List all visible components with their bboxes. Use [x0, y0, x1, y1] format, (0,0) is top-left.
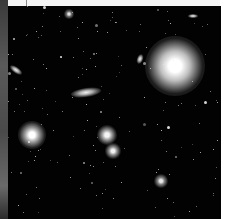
background-star	[50, 160, 51, 161]
background-star	[12, 54, 13, 55]
background-star	[14, 111, 15, 112]
background-star	[28, 141, 30, 143]
background-star	[163, 64, 164, 65]
background-star	[39, 198, 40, 199]
background-star	[194, 23, 195, 24]
background-star	[86, 104, 87, 105]
background-star	[70, 177, 71, 178]
background-star	[87, 120, 88, 121]
background-star	[27, 34, 28, 35]
background-star	[43, 64, 44, 65]
background-star	[82, 74, 83, 75]
background-star	[175, 34, 176, 35]
background-star	[34, 160, 35, 161]
background-star	[82, 68, 83, 69]
elliptical-galaxy-left	[18, 121, 46, 149]
background-star	[93, 145, 94, 146]
background-star	[8, 137, 9, 138]
background-star	[139, 31, 140, 32]
background-star	[161, 140, 162, 141]
background-star	[46, 90, 47, 91]
background-star	[22, 94, 23, 95]
background-star	[96, 53, 97, 54]
background-star	[205, 54, 206, 55]
background-star	[61, 57, 62, 58]
background-star	[157, 9, 159, 11]
galaxy-lower-right	[154, 174, 168, 188]
background-star	[8, 101, 9, 102]
galaxy-field-image	[8, 6, 221, 219]
background-star	[43, 6, 46, 9]
background-star	[207, 24, 208, 25]
background-star	[140, 24, 141, 25]
background-star	[28, 161, 29, 162]
background-star	[126, 30, 127, 31]
background-star	[157, 124, 158, 125]
background-star	[119, 117, 120, 118]
background-star	[216, 100, 217, 101]
background-star	[103, 99, 104, 100]
background-star	[8, 54, 9, 55]
background-star	[89, 173, 90, 174]
background-star	[69, 155, 70, 156]
background-star	[193, 159, 194, 160]
background-star	[96, 195, 97, 196]
background-star	[121, 182, 122, 183]
background-star	[216, 167, 217, 168]
background-star	[217, 140, 218, 141]
background-star	[38, 212, 39, 213]
background-star	[24, 111, 25, 112]
background-star	[19, 104, 20, 105]
background-star	[26, 35, 27, 36]
background-star	[42, 108, 43, 109]
background-star	[95, 24, 98, 27]
background-star	[167, 126, 170, 129]
background-star	[102, 208, 103, 209]
background-star	[8, 72, 11, 75]
background-star	[77, 27, 78, 28]
background-star	[13, 38, 15, 40]
background-star	[165, 102, 166, 103]
background-star	[41, 35, 42, 36]
background-star	[60, 31, 61, 32]
background-star	[124, 148, 125, 149]
background-star	[30, 151, 31, 152]
background-star	[199, 123, 200, 124]
background-star	[158, 169, 159, 170]
background-star	[100, 111, 102, 113]
galaxy-top	[64, 9, 74, 19]
background-star	[53, 130, 54, 131]
background-star	[213, 193, 214, 194]
background-star	[121, 65, 122, 66]
background-star	[213, 149, 214, 150]
background-star	[27, 6, 28, 7]
background-star	[164, 62, 165, 63]
background-star	[195, 105, 196, 106]
background-star	[97, 137, 98, 138]
background-star	[109, 93, 110, 94]
background-star	[167, 11, 168, 12]
background-star	[168, 20, 169, 21]
background-star	[47, 114, 48, 115]
background-star	[38, 37, 39, 38]
background-star	[105, 189, 106, 190]
background-star	[90, 165, 91, 166]
background-star	[83, 51, 84, 52]
background-star	[119, 72, 120, 73]
background-star	[36, 187, 37, 188]
background-star	[93, 166, 94, 167]
background-star	[62, 111, 63, 112]
background-star	[143, 123, 146, 126]
background-star	[35, 156, 36, 157]
background-star	[43, 13, 44, 14]
background-star	[112, 12, 113, 13]
background-star	[73, 57, 74, 58]
background-star	[11, 172, 12, 173]
left-edge-strip	[0, 0, 8, 219]
background-star	[166, 151, 167, 152]
background-star	[116, 76, 117, 77]
background-star	[147, 190, 148, 191]
background-star	[101, 86, 102, 87]
background-star	[174, 216, 175, 217]
background-star	[55, 101, 56, 102]
